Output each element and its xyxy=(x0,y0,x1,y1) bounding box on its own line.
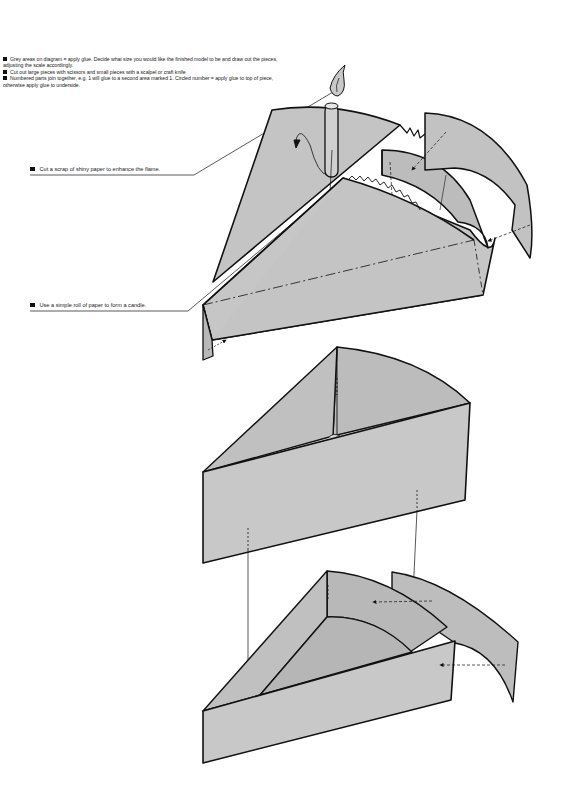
flame-icon xyxy=(330,65,345,96)
top-assembly-diagram xyxy=(30,65,532,360)
bottom-assembly-diagram xyxy=(203,571,518,763)
lid-tabs xyxy=(400,125,425,138)
candle-top xyxy=(325,103,338,109)
diagram-canvas xyxy=(0,0,566,799)
